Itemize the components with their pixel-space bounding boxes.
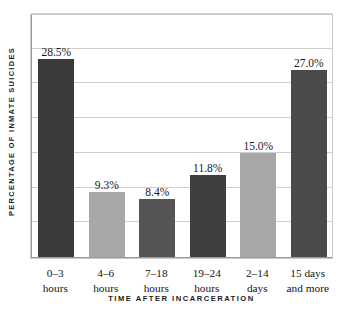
bar[interactable]: 9.3% <box>89 192 125 257</box>
x-tick-label: 19–24hours <box>182 266 233 295</box>
gridline <box>31 13 332 14</box>
bar[interactable]: 15.0% <box>240 153 276 257</box>
x-axis-tick-labels: 0–3hours4–6hours7–18hours19–24hours2–14d… <box>30 262 333 296</box>
bar-value-label: 28.5% <box>41 46 71 58</box>
bar-chart-figure: PERCENTAGE OF INMATE SUICIDES 28.5%9.3%8… <box>0 0 348 313</box>
x-tick-label: 2–14days <box>232 266 283 295</box>
x-tick-label: 7–18hours <box>131 266 182 295</box>
bar[interactable]: 8.4% <box>139 199 175 257</box>
bar[interactable]: 11.8% <box>190 175 226 257</box>
bar-value-label: 27.0% <box>294 57 324 69</box>
bar-value-label: 9.3% <box>95 179 119 191</box>
plot-area: 28.5%9.3%8.4%11.8%15.0%27.0% <box>30 14 333 259</box>
bar-series: 28.5%9.3%8.4%11.8%15.0%27.0% <box>31 15 332 258</box>
bar[interactable]: 27.0% <box>291 70 327 257</box>
y-axis-title-text: PERCENTAGE OF INMATE SUICIDES <box>8 46 17 215</box>
bar[interactable]: 28.5% <box>38 59 74 257</box>
x-tick-label: 0–3hours <box>30 266 81 295</box>
bar-value-label: 11.8% <box>193 162 222 174</box>
x-tick-label: 4–6hours <box>81 266 132 295</box>
bar-value-label: 15.0% <box>243 140 273 152</box>
x-tick-label: 15 daysand more <box>283 266 334 295</box>
bar-value-label: 8.4% <box>145 186 169 198</box>
x-axis-title: TIME AFTER INCARCERATION <box>30 294 333 303</box>
y-axis-title: PERCENTAGE OF INMATE SUICIDES <box>0 0 24 262</box>
